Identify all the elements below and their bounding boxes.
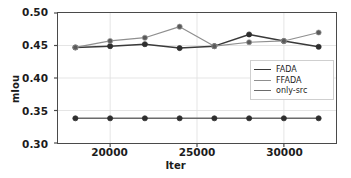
- chart-figure: 0.300.350.400.450.50 200002500030000 Ite…: [0, 0, 351, 178]
- series-only-src: [73, 116, 321, 121]
- y-axis-title: mIou: [10, 75, 21, 103]
- x-tick-label: 30000: [266, 146, 303, 158]
- y-tick-label: 0.50: [22, 6, 48, 18]
- legend-label: FFADA: [276, 76, 301, 85]
- data-point-marker: [142, 116, 147, 121]
- x-tick-label: 25000: [179, 146, 216, 158]
- legend-item-ffada[interactable]: FFADA: [254, 75, 329, 85]
- data-point-marker: [316, 116, 321, 121]
- data-point-marker: [177, 116, 182, 121]
- data-point-marker: [247, 116, 252, 121]
- data-point-marker: [316, 30, 321, 35]
- data-point-marker: [212, 44, 217, 49]
- legend-label: only-src: [276, 86, 307, 95]
- legend-item-fada[interactable]: FADA: [254, 65, 329, 75]
- data-point-marker: [316, 44, 321, 49]
- y-tick-label: 0.30: [22, 138, 48, 150]
- data-point-marker: [247, 32, 252, 37]
- data-point-marker: [73, 116, 78, 121]
- data-point-marker: [108, 116, 113, 121]
- data-point-marker: [73, 45, 78, 50]
- data-point-marker: [177, 46, 182, 51]
- legend-label: FADA: [276, 65, 297, 74]
- data-point-marker: [177, 24, 182, 29]
- legend-item-only-src[interactable]: only-src: [254, 86, 329, 96]
- data-point-marker: [142, 35, 147, 40]
- data-point-marker: [212, 116, 217, 121]
- data-point-marker: [281, 38, 286, 43]
- y-tick-label: 0.40: [22, 72, 48, 84]
- y-axis-tick-labels: 0.300.350.400.450.50: [0, 12, 54, 144]
- data-point-marker: [108, 44, 113, 49]
- x-axis-title: Iter: [0, 160, 351, 171]
- data-point-marker: [247, 40, 252, 45]
- data-point-marker: [281, 116, 286, 121]
- chart-legend: FADAFFADAonly-src: [250, 60, 334, 100]
- data-point-marker: [108, 38, 113, 43]
- y-tick-label: 0.45: [22, 39, 48, 51]
- y-tick-label: 0.35: [22, 105, 48, 117]
- x-tick-label: 20000: [91, 146, 128, 158]
- legend-line-swatch: [254, 69, 271, 70]
- legend-line-swatch: [254, 80, 271, 81]
- data-point-marker: [142, 42, 147, 47]
- legend-line-swatch: [254, 90, 271, 91]
